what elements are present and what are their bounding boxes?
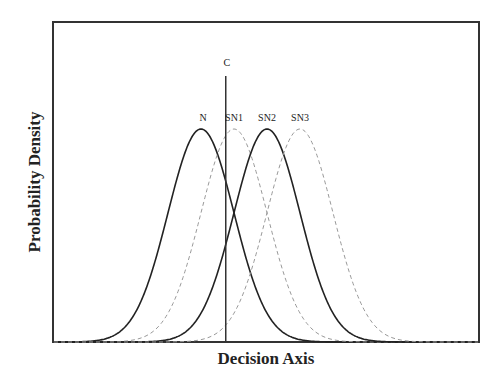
curve-label-sn2: SN2 [258,112,276,123]
x-axis-title: Decision Axis [218,349,315,368]
y-axis-title: Probability Density [25,111,44,252]
plot-frame [53,22,479,342]
curve-label-sn3: SN3 [291,112,309,123]
curve-labels: NSN1SN2SN3 [199,112,309,123]
curve-label-n: N [199,112,206,123]
curve-n [54,129,478,342]
chart: C NSN1SN2SN3 Decision Axis Probability D… [0,0,503,375]
distribution-curves [54,129,478,342]
criterion-label: C [223,57,230,68]
curve-label-sn1: SN1 [225,112,243,123]
